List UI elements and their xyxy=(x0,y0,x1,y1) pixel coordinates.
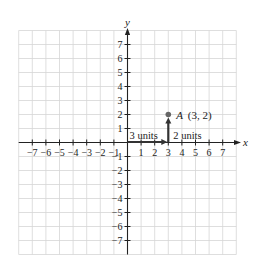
x-tick-label: 7 xyxy=(220,147,225,158)
y-tick-label: 6 xyxy=(118,53,123,64)
x-tick-label: 5 xyxy=(193,147,198,158)
point-a xyxy=(166,112,172,118)
coordinate-plane: −7−6−5−4−3−2−112345677654321−1−2−3−4−5−6… xyxy=(0,0,260,270)
y-tick-label: −7 xyxy=(112,235,123,246)
x-tick-label: 3 xyxy=(166,147,171,158)
y-tick-label: 7 xyxy=(118,39,123,50)
x-tick-label: 6 xyxy=(207,147,212,158)
y-axis-arrow-icon xyxy=(125,28,130,35)
x-tick-label: −4 xyxy=(68,147,79,158)
y-tick-label: 5 xyxy=(118,67,123,78)
y-tick-label: −5 xyxy=(112,207,123,218)
vertical-annotation: 2 units xyxy=(173,130,201,141)
x-tick-label: −5 xyxy=(54,147,65,158)
point-a-label: A (3, 2) xyxy=(175,109,212,122)
x-axis-arrow-icon xyxy=(234,140,241,145)
y-tick-label: −1 xyxy=(112,151,123,162)
x-tick-label: −7 xyxy=(27,147,38,158)
point-a-name: A xyxy=(175,109,183,121)
x-axis-label: x xyxy=(242,136,248,148)
y-tick-label: −4 xyxy=(112,193,123,204)
x-tick-label: 2 xyxy=(152,147,157,158)
x-tick-label: −6 xyxy=(41,147,52,158)
y-axis-label: y xyxy=(124,16,130,28)
x-tick-label: 1 xyxy=(139,147,144,158)
y-tick-label: −3 xyxy=(112,179,123,190)
point-a-coords: (3, 2) xyxy=(188,109,212,122)
vertical-arrowhead-icon xyxy=(165,118,171,124)
y-tick-label: 4 xyxy=(118,81,123,92)
y-tick-label: 3 xyxy=(118,95,123,106)
y-tick-label: 1 xyxy=(118,123,123,134)
y-tick-label: −2 xyxy=(112,165,123,176)
y-tick-label: 2 xyxy=(118,109,123,120)
x-tick-label: 4 xyxy=(179,147,184,158)
horizontal-annotation: 3 units xyxy=(130,130,158,141)
horizontal-arrowhead-icon xyxy=(161,139,167,145)
x-tick-label: −2 xyxy=(95,147,106,158)
y-tick-label: −6 xyxy=(112,221,123,232)
x-tick-label: −3 xyxy=(81,147,92,158)
